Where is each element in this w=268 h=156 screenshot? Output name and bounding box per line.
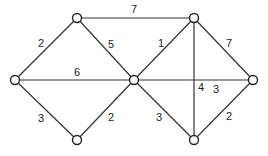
edge-weight-label: 2 (38, 37, 44, 49)
edge-weight-label: 4 (198, 81, 204, 93)
edge-weight-label: 5 (108, 38, 114, 50)
edge-weight-label: 1 (158, 37, 164, 49)
edge-weight-label: 2 (108, 111, 114, 123)
edge-labels-layer: 256732147332 (38, 3, 232, 124)
edge-D-E (134, 18, 194, 80)
weighted-graph: 256732147332 (0, 0, 268, 156)
edge-A-B (15, 18, 77, 80)
node-B (73, 14, 82, 23)
edge-weight-label: 3 (213, 83, 219, 95)
node-E (190, 14, 199, 23)
node-G (249, 76, 258, 85)
edge-E-G (194, 18, 253, 80)
node-C (73, 136, 82, 145)
edge-A-C (15, 80, 77, 140)
node-A (11, 76, 20, 85)
edge-C-D (77, 80, 134, 140)
edge-weight-label: 2 (226, 110, 232, 122)
nodes-layer (11, 14, 258, 145)
edge-D-F (134, 80, 194, 140)
edge-weight-label: 3 (156, 111, 162, 123)
node-F (190, 136, 199, 145)
edge-weight-label: 3 (38, 112, 44, 124)
edge-B-D (77, 18, 134, 80)
edge-weight-label: 6 (74, 66, 80, 78)
edge-weight-label: 7 (226, 37, 232, 49)
node-D (130, 76, 139, 85)
edge-weight-label: 7 (131, 3, 137, 15)
